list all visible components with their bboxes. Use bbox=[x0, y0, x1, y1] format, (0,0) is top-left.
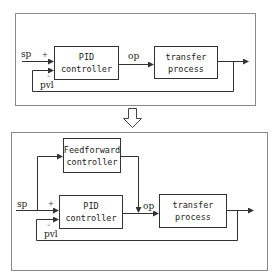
bottom-pid-block: PID controller bbox=[60, 196, 123, 229]
minus-sign: – bbox=[47, 221, 51, 229]
top-pid-label-line1: PID bbox=[79, 52, 94, 62]
pvl-label: pvl bbox=[40, 80, 54, 90]
feedforward-label-line1: Feedforward bbox=[64, 145, 120, 155]
pvl-label: pvl bbox=[44, 229, 58, 239]
feedforward-block: Feedforward controller bbox=[64, 139, 121, 173]
down-arrow-icon bbox=[124, 109, 142, 128]
feedforward-label-line2: controller bbox=[66, 157, 117, 167]
feedforward-output-wire bbox=[121, 157, 139, 213]
minus-sign: – bbox=[47, 72, 51, 80]
op-label: op bbox=[143, 201, 154, 211]
plus-sign: + bbox=[42, 51, 48, 59]
top-pid-label-line2: controller bbox=[61, 64, 112, 74]
diagram-canvas: sp + PID controller op transfer process … bbox=[0, 0, 275, 279]
top-process-label-line1: transfer bbox=[166, 52, 207, 62]
sp-label: sp bbox=[21, 49, 32, 59]
top-process-block: transfer process bbox=[155, 47, 218, 79]
top-pid-block: PID controller bbox=[55, 47, 119, 80]
top-process-label-line2: process bbox=[168, 64, 204, 74]
bottom-pid-label-line1: PID bbox=[83, 201, 98, 211]
sp-label: sp bbox=[17, 199, 28, 209]
plus-sign: + bbox=[48, 200, 54, 208]
bottom-process-block: transfer process bbox=[160, 195, 227, 228]
top-diagram: sp + PID controller op transfer process … bbox=[16, 14, 256, 106]
bottom-process-label-line2: process bbox=[175, 212, 211, 222]
bottom-diagram: Feedforward controller sp + PID controll… bbox=[12, 133, 268, 271]
feedforward-box bbox=[64, 139, 121, 173]
op-label: op bbox=[128, 51, 139, 61]
bottom-process-label-line1: transfer bbox=[173, 200, 214, 210]
bottom-pid-label-line2: controller bbox=[65, 213, 116, 223]
